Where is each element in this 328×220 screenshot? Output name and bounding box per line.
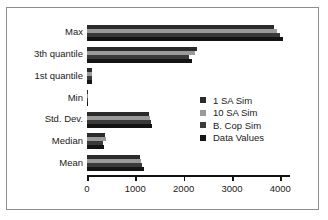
x-axis-tick: [87, 175, 89, 181]
bar: [87, 167, 144, 171]
x-axis-tick-label: 2000: [173, 183, 194, 194]
legend-swatch-icon: [200, 135, 206, 141]
bar: [87, 102, 88, 106]
legend-item[interactable]: 1 SA Sim: [200, 94, 310, 107]
chart-legend: 1 SA Sim10 SA SimB. Cop SimData Values: [200, 94, 310, 144]
category-label: 1st quantile: [11, 71, 83, 81]
category-label: Std. Dev.: [11, 114, 83, 124]
bar: [87, 80, 92, 84]
legend-swatch-icon: [200, 110, 206, 116]
legend-label: Data Values: [213, 132, 264, 143]
chart-frame: Max3th quantile1st quantileMinStd. Dev.M…: [6, 7, 319, 210]
bar-group: [87, 152, 290, 174]
category-label: Max: [11, 27, 83, 37]
legend-item[interactable]: Data Values: [200, 132, 310, 145]
legend-swatch-icon: [200, 97, 206, 103]
bar: [87, 37, 283, 41]
legend-label: B. Cop Sim: [213, 120, 261, 131]
legend-label: 10 SA Sim: [213, 107, 257, 118]
x-axis-tick-label: 3000: [221, 183, 242, 194]
legend-item[interactable]: B. Cop Sim: [200, 119, 310, 132]
category-axis-labels: Max3th quantile1st quantileMinStd. Dev.M…: [9, 22, 83, 174]
bar-group: [87, 65, 290, 87]
bar-group: [87, 22, 290, 44]
x-axis-line: 01000200030004000: [87, 175, 290, 177]
x-axis-tick: [232, 175, 234, 181]
x-axis-tick-label: 1000: [125, 183, 146, 194]
bar-chart: Max3th quantile1st quantileMinStd. Dev.M…: [7, 8, 320, 211]
bar-group: [87, 44, 290, 66]
x-axis-tick: [135, 175, 137, 181]
legend-label: 1 SA Sim: [213, 95, 252, 106]
x-axis-tick-label: 4000: [270, 183, 291, 194]
category-label: Min: [11, 93, 83, 103]
x-axis-tick-label: 0: [84, 183, 89, 194]
bar: [87, 145, 104, 149]
bar: [87, 124, 152, 128]
category-label: 3th quantile: [11, 49, 83, 59]
x-axis-tick: [184, 175, 186, 181]
category-label: Median: [11, 136, 83, 146]
category-label: Mean: [11, 158, 83, 168]
legend-swatch-icon: [200, 122, 206, 128]
bar: [87, 59, 192, 63]
legend-item[interactable]: 10 SA Sim: [200, 107, 310, 120]
x-axis-tick: [280, 175, 282, 181]
